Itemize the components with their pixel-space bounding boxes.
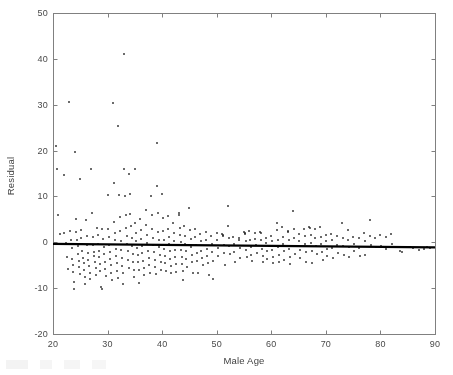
y-axis-label: Residual (5, 157, 16, 196)
y-tick-label: -20 (23, 329, 48, 339)
x-tick-label: 70 (321, 339, 331, 349)
x-tick-label: 50 (211, 339, 221, 349)
y-tick-label: 10 (23, 191, 48, 201)
y-tick-label: 30 (23, 100, 48, 110)
y-tick-label: -10 (23, 283, 48, 293)
x-axis-label: Male Age (223, 355, 264, 366)
x-tick-label: 30 (102, 339, 112, 349)
residual-scatter-figure: Residual Male Age -20-1001020304050 2030… (0, 0, 453, 375)
x-tick-label: 20 (48, 339, 58, 349)
x-tick-label: 40 (157, 339, 167, 349)
x-tick-label: 90 (430, 339, 440, 349)
y-tick-label: 0 (23, 237, 48, 247)
y-tick-label: 40 (23, 54, 48, 64)
x-tick-label: 80 (375, 339, 385, 349)
scan-artifact-caption-fragment (6, 360, 186, 369)
y-tick-label: 50 (23, 8, 48, 18)
y-tick-label: 20 (23, 146, 48, 156)
x-tick-label: 60 (266, 339, 276, 349)
scatter-plot-canvas (0, 0, 453, 375)
